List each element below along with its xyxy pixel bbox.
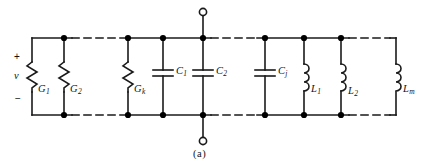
resistor-symbol-g2	[59, 62, 69, 92]
label-subscript-g1: 1	[46, 87, 50, 96]
node-dot-top-l2	[338, 35, 344, 41]
label-letter-c2: C	[216, 65, 223, 76]
label-letter-lm: L	[403, 83, 409, 94]
schematic-canvas	[0, 0, 429, 165]
node-dot-top-cj	[262, 35, 268, 41]
port-voltage-label: v	[14, 71, 19, 82]
label-subscript-l2: 2	[354, 89, 358, 98]
node-dot-top-c1	[160, 35, 166, 41]
node-dot-top-l1	[301, 35, 307, 41]
label-letter-gk: G	[134, 83, 142, 94]
component-label-c2: C2	[216, 66, 227, 78]
node-dot-bottom-gk	[125, 112, 131, 118]
bottom-terminal-circle-icon[interactable]	[199, 137, 206, 144]
component-label-l2: L2	[348, 86, 358, 98]
label-letter-c1: C	[176, 65, 183, 76]
node-dot-bottom-c2	[200, 112, 206, 118]
label-subscript-l1: 1	[317, 87, 321, 96]
inductor-symbol-l1	[304, 64, 309, 91]
component-label-gk: Gk	[134, 84, 145, 96]
label-subscript-lm: m	[409, 87, 415, 96]
label-letter-g1: G	[38, 83, 46, 94]
node-dot-top-gk	[125, 35, 131, 41]
label-letter-g2: G	[70, 83, 78, 94]
label-subscript-gk: k	[142, 87, 146, 96]
label-letter-l1: L	[311, 83, 317, 94]
node-dot-bottom-c1	[160, 112, 166, 118]
node-dot-bottom-l1	[301, 112, 307, 118]
resistor-symbol-gk	[123, 62, 133, 92]
label-subscript-c1: 1	[183, 69, 187, 78]
label-letter-cj: C	[278, 65, 285, 76]
port-minus-sign: −	[15, 94, 21, 104]
inductor-symbol-lm	[396, 64, 401, 91]
node-dot-bottom-l2	[338, 112, 344, 118]
node-dot-top-g2	[61, 35, 67, 41]
node-dot-bottom-cj	[262, 112, 268, 118]
component-label-lm: Lm	[403, 84, 415, 96]
node-dot-top-c2	[200, 35, 206, 41]
label-letter-l2: L	[348, 85, 354, 96]
circuit-diagram: + v − G1 G2 Gk C1 C2 Cj L1 L2 Lm (a)	[0, 0, 429, 165]
figure-caption: (a)	[193, 149, 206, 160]
component-label-l1: L1	[311, 84, 321, 96]
component-label-cj: Cj	[278, 66, 287, 78]
label-subscript-g2: 2	[78, 87, 82, 96]
resistor-symbol-g1	[27, 62, 37, 92]
component-label-g2: G2	[70, 84, 82, 96]
port-plus-sign: +	[14, 52, 20, 62]
component-label-g1: G1	[38, 84, 50, 96]
component-label-c1: C1	[176, 66, 187, 78]
label-subscript-cj: j	[285, 69, 287, 78]
inductor-symbol-l2	[341, 64, 346, 91]
label-subscript-c2: 2	[223, 69, 227, 78]
top-terminal-circle-icon[interactable]	[199, 8, 206, 15]
node-dot-bottom-g2	[61, 112, 67, 118]
